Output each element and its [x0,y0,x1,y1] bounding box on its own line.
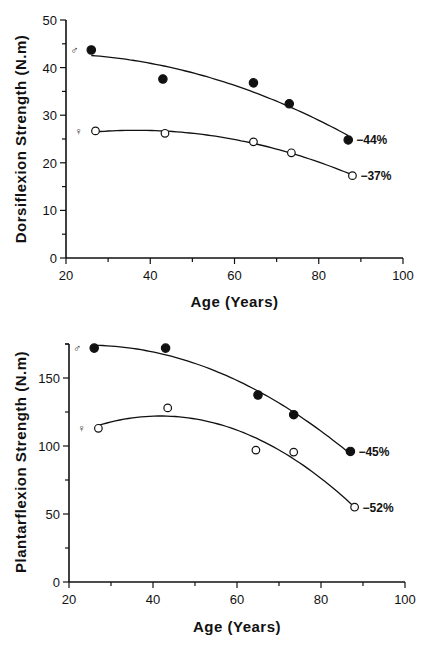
male-data-point [87,46,95,54]
y-tick-label: 0 [53,575,60,590]
x-tick-label: 20 [62,592,76,607]
percent-change-label: −45% [358,445,389,459]
x-axis-title: Age (Years) [190,293,278,310]
y-tick-label: 10 [43,203,57,218]
male-data-point [285,100,293,108]
percent-change-label: −52% [363,501,394,515]
male-data-point [290,411,298,419]
figure: 0102030405020406080100Age (Years)Dorsifl… [0,0,432,646]
female-data-point [164,404,172,412]
male-data-point [249,79,257,87]
male-data-point [159,75,167,83]
y-tick-label: 50 [46,507,60,522]
female-data-point [290,448,298,456]
male-fit-curve [94,345,350,454]
female-data-point [252,446,260,454]
female-data-point [349,172,357,180]
percent-change-label: −44% [356,133,387,147]
y-axis-title: Plantarflexion Strength (N.m) [12,351,29,573]
y-tick-label: 0 [50,251,57,266]
male-symbol-icon: ♂ [70,44,78,56]
percent-change-label: −37% [360,169,391,183]
male-data-point [254,391,262,399]
x-tick-label: 60 [230,592,244,607]
female-fit-curve [96,130,353,175]
female-data-point [95,425,103,433]
x-tick-label: 100 [394,592,416,607]
y-tick-label: 20 [43,156,57,171]
male-data-point [346,447,354,455]
x-tick-label: 100 [392,268,414,283]
female-data-point [351,503,359,511]
x-tick-label: 40 [146,592,160,607]
y-tick-label: 50 [43,13,57,28]
y-axis-title: Dorsiflexion Strength (N.m) [12,35,29,244]
female-data-point [250,138,258,146]
y-tick-label: 40 [43,61,57,76]
male-data-point [161,344,169,352]
x-tick-label: 40 [143,268,157,283]
x-tick-label: 80 [314,592,328,607]
plantarflexion-chart: 05010015020406080100Age (Years)Plantarfl… [12,342,416,635]
y-tick-label: 150 [38,371,60,386]
male-data-point [90,344,98,352]
male-symbol-icon: ♂ [73,342,81,354]
female-symbol-icon: ♀ [77,422,85,434]
female-data-point [288,149,296,157]
female-data-point [161,129,169,137]
x-tick-label: 80 [312,268,326,283]
female-symbol-icon: ♀ [74,125,82,137]
female-fit-curve [98,416,354,507]
x-axis-title: Age (Years) [193,618,281,635]
dorsiflexion-chart: 0102030405020406080100Age (Years)Dorsifl… [12,13,414,310]
y-tick-label: 30 [43,108,57,123]
y-tick-label: 100 [38,439,60,454]
x-tick-label: 20 [59,268,73,283]
male-data-point [344,136,352,144]
x-tick-label: 60 [227,268,241,283]
male-fit-curve [91,56,348,136]
female-data-point [92,127,100,135]
